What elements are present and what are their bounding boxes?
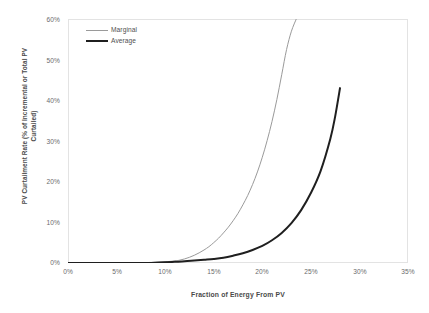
legend-label-marginal: Marginal [108,26,137,33]
legend-label-average: Average [108,37,136,44]
series-line-marginal [68,19,296,263]
y-axis-title-line-2: Curtailed) [30,111,37,142]
x-tick-label-10: 10% [145,268,185,275]
pv-curtailment-chart: PV Curtailment Rate (% of Incremental or… [0,0,429,313]
chart-legend: Marginal Average [86,24,172,46]
y-axis-title: PV Curtailment Rate (% of Incremental or… [21,6,47,246]
x-tick-label-20: 20% [242,268,282,275]
y-tick-label-0: 0% [26,259,60,266]
legend-line-marginal-icon [86,27,108,33]
x-tick-label-30: 30% [340,268,380,275]
x-tick-label-5: 5% [97,268,137,275]
legend-item-average: Average [86,35,172,46]
plot-lines [68,19,408,263]
legend-line-average-icon [86,38,108,44]
y-tick-label-10: 10% [26,219,60,226]
x-tick-label-35: 35% [388,268,428,275]
x-tick-label-15: 15% [194,268,234,275]
y-tick-label-40: 40% [26,97,60,104]
series-line-average [68,88,340,263]
x-tick-label-0: 0% [48,268,88,275]
y-tick-label-30: 30% [26,138,60,145]
y-tick-label-60: 60% [26,16,60,23]
y-tick-label-50: 50% [26,57,60,64]
x-axis-title: Fraction of Energy From PV [68,291,408,298]
x-tick-label-25: 25% [291,268,331,275]
y-tick-label-20: 20% [26,178,60,185]
legend-item-marginal: Marginal [86,24,172,35]
